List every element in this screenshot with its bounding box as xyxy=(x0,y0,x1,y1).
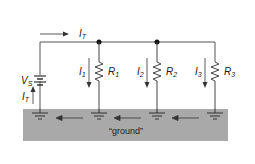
total-current-label: IT xyxy=(79,28,87,40)
branch-1: I1 R1 xyxy=(79,42,119,108)
resistor-r1-label: R1 xyxy=(108,66,119,78)
parallel-circuit-diagram: VS IT IT I1 R1 I2 R2 I3 R3 xyxy=(0,0,255,164)
resistor-r3-label: R3 xyxy=(224,66,235,78)
total-current-arrow-icon xyxy=(40,32,69,37)
branch-2: I2 R2 xyxy=(137,42,177,108)
source-label: VS xyxy=(21,75,33,87)
top-wire xyxy=(40,42,215,108)
resistor-r2-icon xyxy=(153,42,161,108)
branch-3: I3 R3 xyxy=(195,58,235,108)
resistor-r1-icon xyxy=(95,42,103,108)
resistor-r2-label: R2 xyxy=(166,66,177,78)
return-current-label: IT xyxy=(22,91,30,103)
current-i3-label: I3 xyxy=(195,66,202,78)
current-i2-label: I2 xyxy=(137,66,144,78)
resistor-r3-icon xyxy=(211,62,219,108)
return-current-arrow-icon xyxy=(31,86,36,104)
ground-label: “ground” xyxy=(109,126,143,136)
current-i1-label: I1 xyxy=(79,66,86,78)
ground-plane xyxy=(23,109,228,141)
